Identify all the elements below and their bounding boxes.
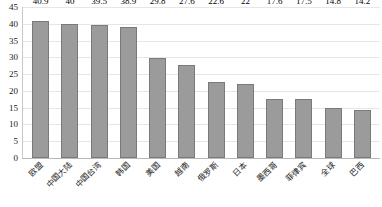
bar-slot: 39.5	[85, 7, 114, 158]
bar-slot: 22.6	[202, 7, 231, 158]
bar[interactable]: 27.6	[178, 65, 195, 158]
y-axis-tick-label: 30	[9, 53, 18, 62]
bar-slot: 38.9	[114, 7, 143, 158]
bar-chart: 454035302520151050 40.94039.538.929.827.…	[0, 0, 382, 207]
bar-slot: 29.8	[143, 7, 172, 158]
x-axis-label-slot: 菲律宾	[289, 158, 318, 207]
y-axis-tick-label: 10	[9, 120, 18, 129]
bar-slot: 14.8	[319, 7, 348, 158]
bar-value-label: 22	[241, 0, 250, 6]
x-axis-label-slot: 美国	[143, 158, 172, 207]
y-axis-labels: 454035302520151050	[0, 7, 20, 158]
y-axis-tick-label: 45	[9, 3, 18, 12]
y-axis-tick-label: 5	[14, 137, 19, 146]
bar[interactable]: 38.9	[120, 27, 137, 158]
x-axis-label-slot: 俄罗斯	[202, 158, 231, 207]
bar-slot: 22	[231, 7, 260, 158]
y-axis-tick-label: 15	[9, 103, 18, 112]
bar-value-label: 22.6	[208, 0, 224, 6]
bar-value-label: 17.5	[296, 0, 312, 6]
bar[interactable]: 40	[61, 24, 78, 158]
bar[interactable]: 22.6	[208, 82, 225, 158]
x-axis-label-slot: 韩国	[114, 158, 143, 207]
y-axis-tick-label: 0	[14, 154, 19, 163]
bar-series: 40.94039.538.929.827.622.62217.617.514.8…	[22, 7, 380, 158]
bar-slot: 27.6	[172, 7, 201, 158]
bar[interactable]: 14.8	[325, 108, 342, 158]
bar-value-label: 29.8	[150, 0, 166, 6]
y-axis-tick-label: 35	[9, 36, 18, 45]
x-axis-label-slot: 中国台湾	[85, 158, 114, 207]
bar[interactable]: 40.9	[32, 21, 49, 158]
bar[interactable]: 29.8	[149, 58, 166, 158]
bar-value-label: 27.6	[179, 0, 195, 6]
y-axis-tick-label: 25	[9, 70, 18, 79]
bar[interactable]: 22	[237, 84, 254, 158]
bar[interactable]: 17.6	[266, 99, 283, 158]
x-axis-label-slot: 巴西	[348, 158, 377, 207]
bar-value-label: 40.9	[33, 0, 49, 6]
bar-slot: 14.2	[348, 7, 377, 158]
plot-area: 40.94039.538.929.827.622.62217.617.514.8…	[22, 7, 380, 158]
y-axis-tick-label: 40	[9, 19, 18, 28]
bar-value-label: 14.8	[325, 0, 341, 6]
bar-slot: 17.5	[289, 7, 318, 158]
bar-value-label: 39.5	[91, 0, 107, 6]
x-axis-label-slot: 全球	[319, 158, 348, 207]
bar-slot: 17.6	[260, 7, 289, 158]
bar-value-label: 38.9	[121, 0, 137, 6]
bar[interactable]: 39.5	[91, 25, 108, 158]
x-axis-label-slot: 墨西哥	[260, 158, 289, 207]
bar-slot: 40	[55, 7, 84, 158]
x-axis-label-slot: 越南	[172, 158, 201, 207]
bar-slot: 40.9	[26, 7, 55, 158]
x-axis-label-slot: 日本	[231, 158, 260, 207]
x-axis-labels: 欧盟中国大陆中国台湾韩国美国越南俄罗斯日本墨西哥菲律宾全球巴西	[22, 158, 380, 207]
bar-value-label: 17.6	[267, 0, 283, 6]
bar[interactable]: 17.5	[295, 99, 312, 158]
bar-value-label: 40	[65, 0, 74, 6]
bar-value-label: 14.2	[355, 0, 371, 6]
y-axis-tick-label: 20	[9, 86, 18, 95]
